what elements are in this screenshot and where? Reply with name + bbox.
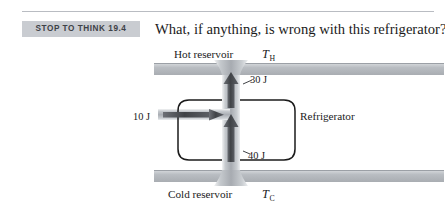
cold-reservoir-label: Cold reservoir (168, 188, 233, 200)
exercise-header: STOP TO THINK 19.4 What, if anything, is… (22, 18, 434, 46)
hot-reservoir-label: Hot reservoir (174, 48, 234, 60)
cold-reservoir-band (154, 170, 444, 182)
cold-temperature-label: TC (262, 187, 275, 203)
top-divider (22, 11, 434, 12)
energy-transfer-diagram: Hot reservoir TH Cold reservoir TC 30 J … (0, 48, 445, 208)
diagram-canvas: Hot reservoir TH Cold reservoir TC 30 J … (0, 48, 445, 208)
cold-temp-subscript: C (269, 194, 274, 203)
hot-temperature-label: TH (262, 48, 275, 63)
stop-to-think-badge: STOP TO THINK 19.4 (22, 21, 140, 37)
question-prompt: What, if anything, is wrong with this re… (155, 18, 445, 40)
refrigerator-label: Refrigerator (300, 110, 355, 122)
leader-lines (243, 80, 252, 154)
hot-reservoir-band (154, 63, 444, 75)
stop-to-think-figure: STOP TO THINK 19.4 What, if anything, is… (0, 0, 445, 212)
heat-in-label: 40 J (248, 150, 265, 161)
work-input-label: 10 J (133, 111, 150, 122)
heat-out-label: 30 J (250, 74, 267, 85)
hot-temp-subscript: H (269, 54, 275, 63)
